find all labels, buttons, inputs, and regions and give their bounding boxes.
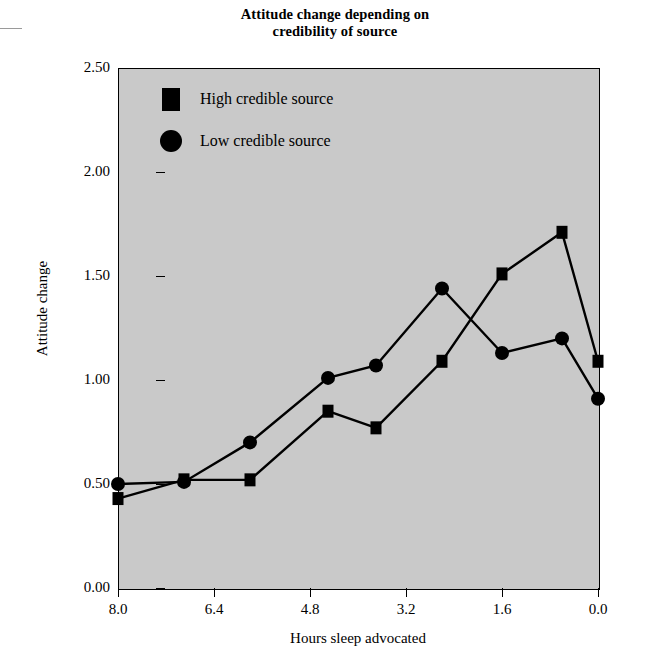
data-point-square xyxy=(371,421,382,434)
y-axis-tick-label: 1.50 xyxy=(54,268,110,283)
data-point-circle xyxy=(111,477,125,491)
data-point-circle xyxy=(321,371,335,385)
data-point-square xyxy=(437,355,448,368)
chart-figure: Attitude change depending on credibility… xyxy=(0,0,670,669)
x-axis-tick-mark xyxy=(598,588,599,597)
data-point-square xyxy=(323,405,334,418)
x-axis-tick-mark xyxy=(214,588,215,597)
series-line xyxy=(118,288,598,484)
x-axis-tick-label: 4.8 xyxy=(280,602,340,617)
x-axis-tick-mark xyxy=(310,588,311,597)
y-axis-tick-label: 2.50 xyxy=(54,60,110,75)
y-axis-tick-label: 2.00 xyxy=(54,164,110,179)
y-axis-title: Attitude change xyxy=(34,229,51,389)
series-circle xyxy=(111,281,605,491)
x-axis-title: Hours sleep advocated xyxy=(118,630,598,647)
series-square xyxy=(113,226,604,505)
x-axis-tick-label: 1.6 xyxy=(472,602,532,617)
y-axis-tick-label: 1.00 xyxy=(54,372,110,387)
x-axis-tick-label: 6.4 xyxy=(184,602,244,617)
chart-title: Attitude change depending on credibility… xyxy=(100,6,570,40)
y-axis-ticks: 2.502.001.501.000.500.00 xyxy=(44,68,110,588)
data-point-circle xyxy=(591,392,605,406)
x-axis-tick-mark xyxy=(118,588,119,597)
x-axis-tick-label: 0.0 xyxy=(568,602,628,617)
data-series-layer xyxy=(118,68,598,588)
data-point-circle xyxy=(555,331,569,345)
data-point-square xyxy=(557,226,568,239)
x-axis-tick-label: 8.0 xyxy=(88,602,148,617)
data-point-circle xyxy=(369,358,383,372)
y-axis-tick-label: 0.00 xyxy=(54,580,110,595)
chart-title-line-2: credibility of source xyxy=(100,23,570,40)
series-line xyxy=(118,232,598,498)
chart-title-line-1: Attitude change depending on xyxy=(100,6,570,23)
y-axis-tick-label: 0.50 xyxy=(54,476,110,491)
x-axis-tick-mark xyxy=(502,588,503,597)
data-point-circle xyxy=(243,435,257,449)
margin-rule xyxy=(0,28,22,29)
x-axis-tick-label: 3.2 xyxy=(376,602,436,617)
data-point-square xyxy=(497,267,508,280)
x-axis-ticks: 8.06.44.83.21.60.0 xyxy=(118,588,598,628)
data-point-circle xyxy=(177,475,191,489)
data-point-circle xyxy=(435,281,449,295)
data-point-square xyxy=(245,473,256,486)
data-point-square xyxy=(113,492,124,505)
data-point-circle xyxy=(495,346,509,360)
data-point-square xyxy=(593,355,604,368)
x-axis-tick-mark xyxy=(406,588,407,597)
